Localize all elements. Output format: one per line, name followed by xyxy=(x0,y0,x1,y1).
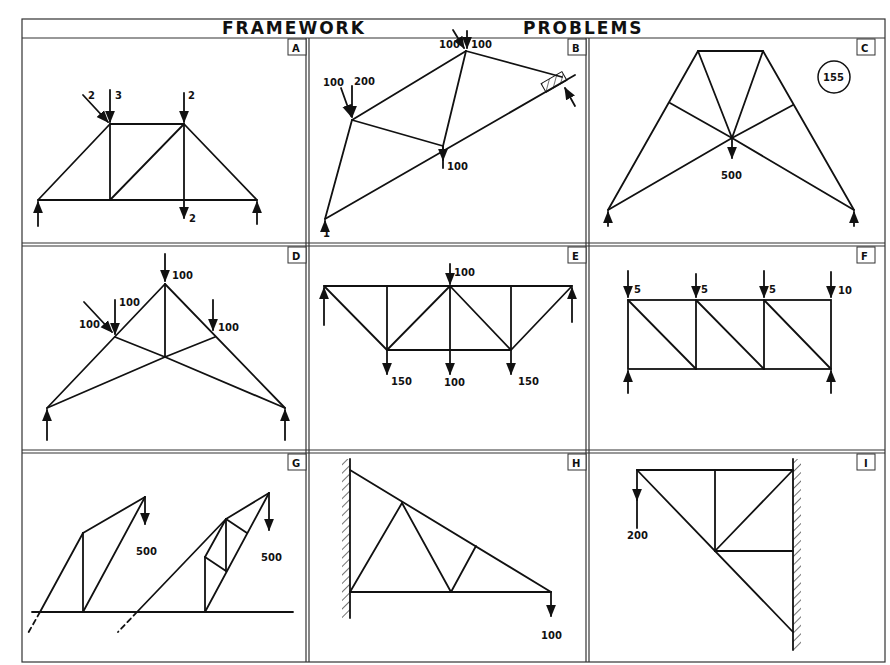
truss-e xyxy=(324,286,572,350)
load-label: 100 xyxy=(79,319,100,330)
load-label: 100 xyxy=(444,377,465,388)
wall-support-i xyxy=(793,459,801,650)
loads-f: 5 5 5 10 xyxy=(628,271,852,393)
panel-b-tag: B xyxy=(572,43,580,54)
loads-d: 100 100 100 100 xyxy=(47,254,285,440)
load-label: 100 xyxy=(119,297,140,308)
load-label: 3 xyxy=(115,90,122,101)
load-label: 2 xyxy=(189,213,196,224)
title-problems: PROBLEMS xyxy=(523,18,644,38)
load-label: 5 xyxy=(701,284,708,295)
wall-support-h xyxy=(342,459,350,618)
panel-h: H 100 xyxy=(342,454,586,641)
panel-f: F 5 5 5 10 xyxy=(628,247,875,393)
load-label: 150 xyxy=(391,376,412,387)
panel-e-tag: E xyxy=(572,251,579,262)
loads-g: 500 500 xyxy=(136,493,282,563)
load-label: 100 xyxy=(323,77,344,88)
load-label: 500 xyxy=(136,546,157,557)
loads-h: 100 xyxy=(541,592,562,641)
load-label: 100 xyxy=(447,161,468,172)
load-label: 200 xyxy=(354,76,375,87)
load-label: 500 xyxy=(261,552,282,563)
panel-h-tag: H xyxy=(572,458,580,469)
load-label: 500 xyxy=(721,170,742,181)
load-label: 100 xyxy=(172,270,193,281)
truss-f xyxy=(628,300,831,369)
panel-f-tag: F xyxy=(861,251,868,262)
truss-c xyxy=(608,51,854,210)
panel-g: G 500 500 xyxy=(27,454,306,635)
page-number: 155 xyxy=(823,72,844,83)
load-label: 100 xyxy=(218,322,239,333)
load-label: 2 xyxy=(88,90,95,101)
framework-problems-sheet: FRAMEWORK PROBLEMS A 2 3 2 2 xyxy=(0,0,890,665)
panel-e: E 100 150 100 150 xyxy=(324,247,586,388)
truss-g xyxy=(27,493,293,635)
load-label: 100 xyxy=(439,39,460,50)
load-label: 150 xyxy=(518,376,539,387)
load-label: 10 xyxy=(838,285,852,296)
loads-a: 2 3 2 2 xyxy=(38,90,257,226)
truss-d xyxy=(47,284,285,408)
panel-i-tag: I xyxy=(864,458,868,469)
panel-a-tag: A xyxy=(292,43,300,54)
load-label: 5 xyxy=(634,284,641,295)
loads-c: 500 xyxy=(608,138,854,226)
truss-a xyxy=(38,124,257,200)
panel-d: D 100 100 100 100 xyxy=(47,247,306,440)
load-label: 5 xyxy=(769,284,776,295)
load-label: 2 xyxy=(188,90,195,101)
panel-d-tag: D xyxy=(292,251,300,262)
load-label: 1 xyxy=(323,228,330,239)
panel-g-tag: G xyxy=(292,458,300,469)
title-framework: FRAMEWORK xyxy=(222,18,366,38)
loads-i: 200 xyxy=(627,470,648,541)
load-label: 100 xyxy=(471,39,492,50)
panel-b: B 100 100 100 200 100 1 xyxy=(323,30,586,239)
load-label: 100 xyxy=(454,267,475,278)
panel-a: A 2 3 2 2 xyxy=(38,39,306,226)
load-label: 100 xyxy=(541,630,562,641)
sheet-frame xyxy=(22,19,885,662)
panel-c-tag: C xyxy=(861,43,868,54)
load-label: 200 xyxy=(627,530,648,541)
panel-c: C 155 500 xyxy=(608,39,875,226)
panel-i: I 200 xyxy=(627,454,875,650)
truss-h xyxy=(350,470,551,592)
truss-i xyxy=(637,470,793,632)
